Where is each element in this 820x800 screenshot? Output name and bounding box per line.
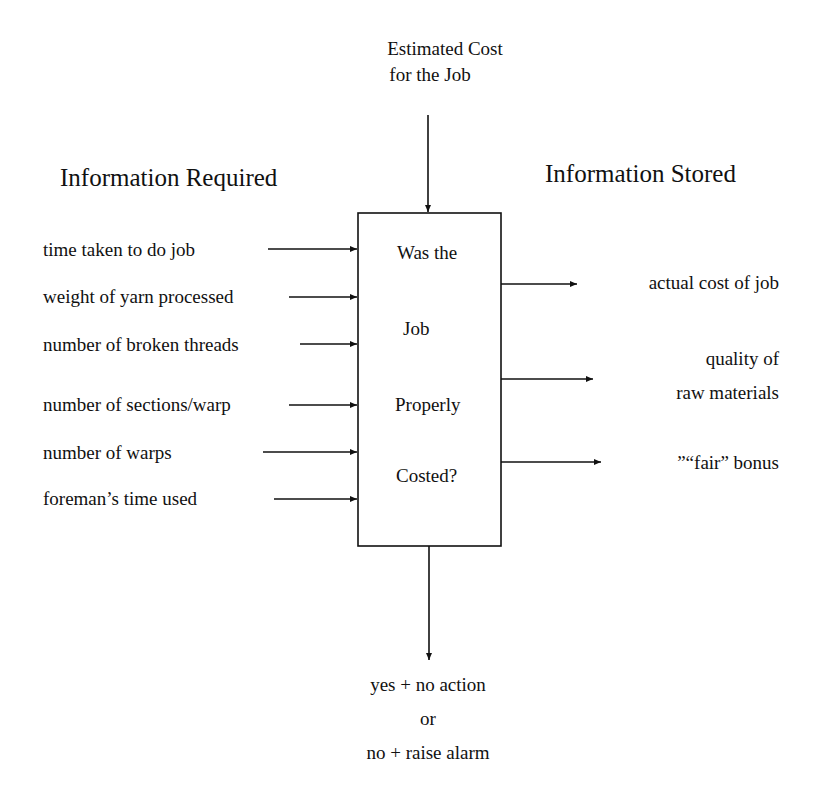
process-text-2: Job: [403, 318, 429, 340]
input-label-2: weight of yarn processed: [43, 286, 233, 308]
top-input-label-2: for the Job: [389, 64, 470, 86]
output-label-2a: quality of: [706, 348, 779, 370]
process-text-4: Costed?: [396, 465, 457, 487]
bottom-output-3: no + raise alarm: [366, 742, 489, 764]
input-label-4: number of sections/warp: [43, 394, 231, 416]
output-label-2b: raw materials: [676, 382, 779, 404]
left-heading: Information Required: [60, 164, 277, 192]
input-label-5: number of warps: [43, 442, 172, 464]
process-text-1: Was the: [397, 242, 457, 264]
bottom-output-2: or: [420, 708, 436, 730]
process-text-3: Properly: [395, 394, 460, 416]
input-label-1: time taken to do job: [43, 239, 195, 261]
output-label-1: actual cost of job: [649, 272, 779, 294]
top-input-label-1: Estimated Cost: [387, 38, 503, 60]
input-label-6: foreman’s time used: [43, 488, 197, 510]
right-heading: Information Stored: [545, 160, 736, 188]
input-label-3: number of broken threads: [43, 334, 239, 356]
output-label-3: ”“fair” bonus: [677, 452, 779, 474]
bottom-output-1: yes + no action: [370, 674, 486, 696]
